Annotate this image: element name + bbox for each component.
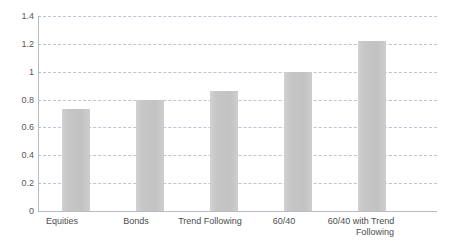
y-tick-mark-1.0: [38, 72, 41, 73]
y-tick-label-0.8: 0.8: [0, 96, 34, 105]
x-label-line-1: 60/40 with Trend: [318, 216, 404, 227]
y-tick-mark-0.4: [38, 155, 41, 156]
bar-bonds: [136, 100, 164, 211]
plot-area: [38, 16, 437, 211]
x-axis-line: [38, 211, 437, 212]
y-tick-label-1.4: 1.4: [0, 12, 34, 21]
x-label-bonds: Bonds: [96, 216, 176, 227]
bar-60-40-with-trend-following: [358, 41, 386, 211]
y-tick-label-1: 1: [0, 68, 34, 77]
bar-equities: [62, 109, 90, 211]
y-tick-label-0.2: 0.2: [0, 179, 34, 188]
bar-trend-following: [210, 91, 238, 211]
y-tick-mark-0.6: [38, 127, 41, 128]
y-tick-mark-1.2: [38, 44, 41, 45]
x-label-60-40-with-trend-following: 60/40 with Trend Following: [318, 216, 404, 238]
y-axis-tick-labels: 1.4 1.2 1 0.8 0.6 0.4 0.2 0: [0, 0, 34, 250]
y-tick-label-0.4: 0.4: [0, 151, 34, 160]
bar-60-40: [284, 72, 312, 211]
y-tick-mark-0: [38, 211, 41, 212]
y-tick-mark-0.2: [38, 183, 41, 184]
x-label-equities: Equities: [22, 216, 102, 227]
x-label-trend-following: Trend Following: [170, 216, 250, 227]
x-label-60-40: 60/40: [244, 216, 324, 227]
bar-chart: 1.4 1.2 1 0.8 0.6 0.4 0.2 0 Equities Bon…: [0, 0, 449, 250]
y-tick-label-0.6: 0.6: [0, 123, 34, 132]
y-tick-mark-1.4: [38, 16, 41, 17]
x-label-line-2: Following: [318, 227, 404, 238]
y-tick-label-1.2: 1.2: [0, 40, 34, 49]
gridline-1.4: [38, 16, 437, 17]
y-tick-label-0: 0: [0, 207, 34, 216]
y-tick-mark-0.8: [38, 100, 41, 101]
